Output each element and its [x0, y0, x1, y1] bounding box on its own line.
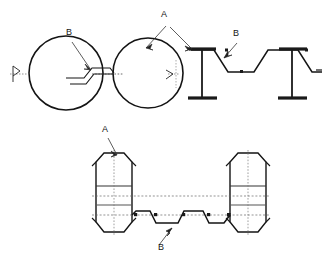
label-b-top-left: B: [66, 27, 72, 37]
leader-line-b-top-left: [72, 42, 91, 70]
drawing-page: B A B A B: [0, 0, 336, 256]
leader-arrowhead-b-top-right: [224, 51, 232, 58]
bottom-deck-corrugation: [132, 211, 230, 223]
top-right-view: [170, 27, 322, 98]
bottom-deck-node-end: [227, 213, 231, 217]
bottom-deck-node-left: [134, 213, 137, 216]
label-b-bottom-mid: B: [158, 242, 164, 252]
leader-arrowhead-a-to-circle: [146, 44, 153, 50]
label-a-bottom-left: A: [102, 124, 108, 134]
left-break-arrow: [13, 66, 20, 76]
deck-corrugation-profile: [191, 50, 322, 72]
bottom-deck-node-mid-left: [154, 213, 157, 216]
deck-weld-point-right: [305, 49, 308, 52]
deck-weld-point-mid: [240, 70, 243, 73]
bottom-deck-node-mid-right: [182, 213, 185, 216]
leader-line-a-to-circle: [146, 26, 166, 48]
engineering-drawing: B A B A B: [0, 0, 336, 256]
bottom-view: [92, 138, 270, 245]
label-b-top-right: B: [233, 28, 239, 38]
deck-weld-point-left: [225, 49, 228, 52]
leader-line-a-to-ibeam: [170, 27, 192, 49]
right-break-arrow: [166, 70, 173, 79]
left-circle-section: [29, 36, 103, 110]
top-left-view: [10, 26, 183, 110]
bottom-deck-node-right: [207, 213, 210, 216]
label-a-top-middle: A: [161, 9, 167, 19]
circle-connecting-web-lower: [70, 74, 113, 84]
